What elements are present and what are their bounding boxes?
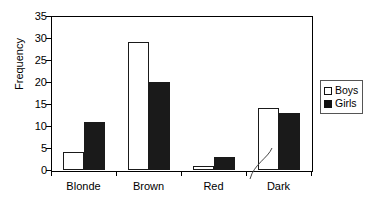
x-category-label-dark: Dark	[244, 180, 314, 192]
bar-girls-dark	[279, 113, 300, 170]
legend: Boys Girls	[320, 80, 363, 114]
legend-swatch-boys-icon	[324, 87, 332, 95]
x-category-label-brown: Brown	[114, 180, 184, 192]
x-tick-mark	[116, 171, 117, 176]
bar-chart: Frequency 05101520253035 BlondeBrownRedD…	[0, 0, 372, 207]
y-tick-label: 0	[21, 165, 47, 176]
x-tick-mark	[51, 171, 52, 176]
bar-girls-brown	[149, 82, 170, 170]
y-tick-label: 10	[21, 121, 47, 132]
bar-boys-red	[193, 166, 214, 170]
legend-label-girls: Girls	[335, 98, 357, 109]
legend-item-boys: Boys	[324, 84, 358, 97]
y-tick-label: 25	[21, 55, 47, 66]
y-tick-label: 35	[21, 11, 47, 22]
x-tick-mark	[181, 171, 182, 176]
bar-boys-blonde	[63, 152, 84, 170]
y-tick-label: 15	[21, 99, 47, 110]
legend-label-boys: Boys	[335, 85, 358, 96]
y-tick-label: 20	[21, 77, 47, 88]
x-category-label-red: Red	[179, 180, 249, 192]
x-tick-mark	[311, 171, 312, 176]
y-tick-label: 30	[21, 33, 47, 44]
bar-girls-red	[214, 157, 235, 170]
x-category-label-blonde: Blonde	[49, 180, 119, 192]
x-tick-mark	[246, 171, 247, 176]
bar-girls-blonde	[84, 122, 105, 170]
legend-swatch-girls-icon	[324, 100, 332, 108]
bar-boys-brown	[128, 42, 149, 170]
legend-item-girls: Girls	[324, 97, 358, 110]
y-tick-label: 5	[21, 143, 47, 154]
bar-boys-dark	[258, 108, 279, 170]
